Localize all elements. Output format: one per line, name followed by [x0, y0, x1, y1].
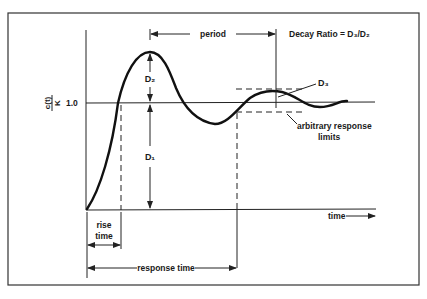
- svg-text:K: K: [53, 100, 62, 106]
- x-axis: [86, 209, 376, 210]
- limits-label-line2: limits: [318, 132, 340, 142]
- decay-ratio-label: Decay Ratio = D₃/D₂: [289, 29, 370, 39]
- svg-text:c(t): c(t): [43, 96, 52, 109]
- d3-leader: [278, 84, 316, 97]
- time-axis-label: time: [328, 211, 346, 221]
- d1-label: D₁: [145, 152, 155, 162]
- d3-label: D₃: [318, 78, 329, 88]
- setpoint-line: [86, 102, 375, 103]
- period-label: period: [200, 29, 226, 39]
- y-axis-label: c(t) K: [43, 95, 62, 111]
- step-response-diagram: period Decay Ratio = D₃/D₂ D₂ D₁ D₃ arbi…: [0, 0, 427, 299]
- limits-leader: [287, 114, 297, 124]
- limits-label-line1: arbitrary response: [297, 121, 372, 131]
- y-tick-label: 1.0: [66, 98, 78, 108]
- rise-time-label-line1: rise: [96, 220, 111, 230]
- d2-label: D₂: [145, 74, 156, 84]
- outer-frame: [8, 13, 419, 285]
- rise-time-label-line2: time: [95, 231, 113, 241]
- response-time-label: response time: [137, 263, 195, 273]
